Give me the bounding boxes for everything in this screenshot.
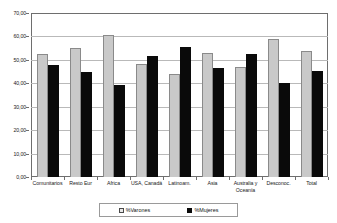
y-axis-tick-mark [26,36,29,37]
y-axis-tick-mark [26,83,29,84]
bar [70,48,81,177]
bar [81,72,92,177]
x-axis-category-label: Comunitarios [31,180,64,204]
bar-group [97,13,130,177]
y-axis-tick-mark [26,130,29,131]
legend-item-label: %Mujeres [194,207,218,213]
y-axis-tick-mark [26,154,29,155]
y-axis-tick-label: 30,00 [14,104,26,110]
x-axis-category-label: Australia y Oceanía [229,180,262,204]
bar [235,67,246,177]
legend-item[interactable]: %Varones [119,207,150,213]
bar [213,68,224,177]
y-axis-tick-label: 40,00 [14,80,26,86]
bar-chart: 70,0060,0050,0040,0030,0020,0010,000,00 … [0,0,337,223]
y-axis-tick-label: 0,00 [16,174,26,180]
legend-item[interactable]: %Mujeres [187,207,218,213]
y-axis-tick-mark [26,177,29,178]
bar-groups [31,13,328,177]
x-axis-tick-mark [328,177,329,180]
bar-group [295,13,328,177]
bar-group [262,13,295,177]
chart-legend: %Varones%Mujeres [99,203,238,217]
bar [48,65,59,177]
x-axis-category-label: Total [295,180,328,204]
x-axis-category-label: Africa [97,180,130,204]
x-axis-category-label: Desconoc. [262,180,295,204]
bar [169,74,180,177]
y-axis-tick-label: 70,00 [14,10,26,16]
bar-group [196,13,229,177]
bar [147,56,158,177]
bar [103,35,114,177]
x-axis-category-label: USA, Canadá [130,180,163,204]
y-axis-tick-mark [26,60,29,61]
y-axis: 70,0060,0050,0040,0030,0020,0010,000,00 [0,13,29,177]
bar-group [64,13,97,177]
bar [136,64,147,177]
bar [279,83,290,177]
light-gray-square-icon [119,208,124,213]
y-axis-tick-mark [26,107,29,108]
y-axis-tick-label: 60,00 [14,33,26,39]
bar [202,53,213,177]
plot-area [31,13,328,177]
x-axis-category-label: Asia [196,180,229,204]
bar-group [31,13,64,177]
x-axis-category-label: Resto Eur [64,180,97,204]
x-axis-labels: ComunitariosResto EurAfricaUSA, CanadáLa… [31,180,328,204]
bar-group [163,13,196,177]
black-square-icon [187,208,192,213]
y-axis-tick-label: 50,00 [14,57,26,63]
legend-item-label: %Varones [126,207,150,213]
bar [180,47,191,177]
bar [301,51,312,178]
x-axis-category-label: Latinoam. [163,180,196,204]
bar [37,54,48,177]
bar-group [130,13,163,177]
bar [246,54,257,177]
y-axis-tick-mark [26,13,29,14]
y-axis-tick-label: 20,00 [14,127,26,133]
y-axis-tick-label: 10,00 [14,151,26,157]
bar [312,71,323,177]
bar [268,39,279,177]
bar-group [229,13,262,177]
bar [114,85,125,177]
